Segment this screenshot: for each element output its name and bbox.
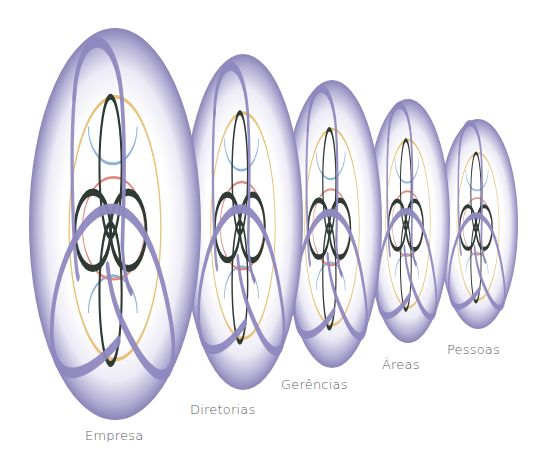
organizational-levels-diagram [0, 0, 545, 470]
level-diretorias [183, 54, 303, 390]
label-empresa: Empresa [85, 428, 143, 443]
label-diretorias: Diretorias [190, 402, 255, 417]
level-empresa [29, 28, 201, 420]
label-areas: Áreas [382, 357, 420, 372]
label-gerencias: Gerências [281, 377, 348, 392]
level-pessoas [438, 119, 518, 329]
label-pessoas: Pessoas [447, 342, 500, 357]
